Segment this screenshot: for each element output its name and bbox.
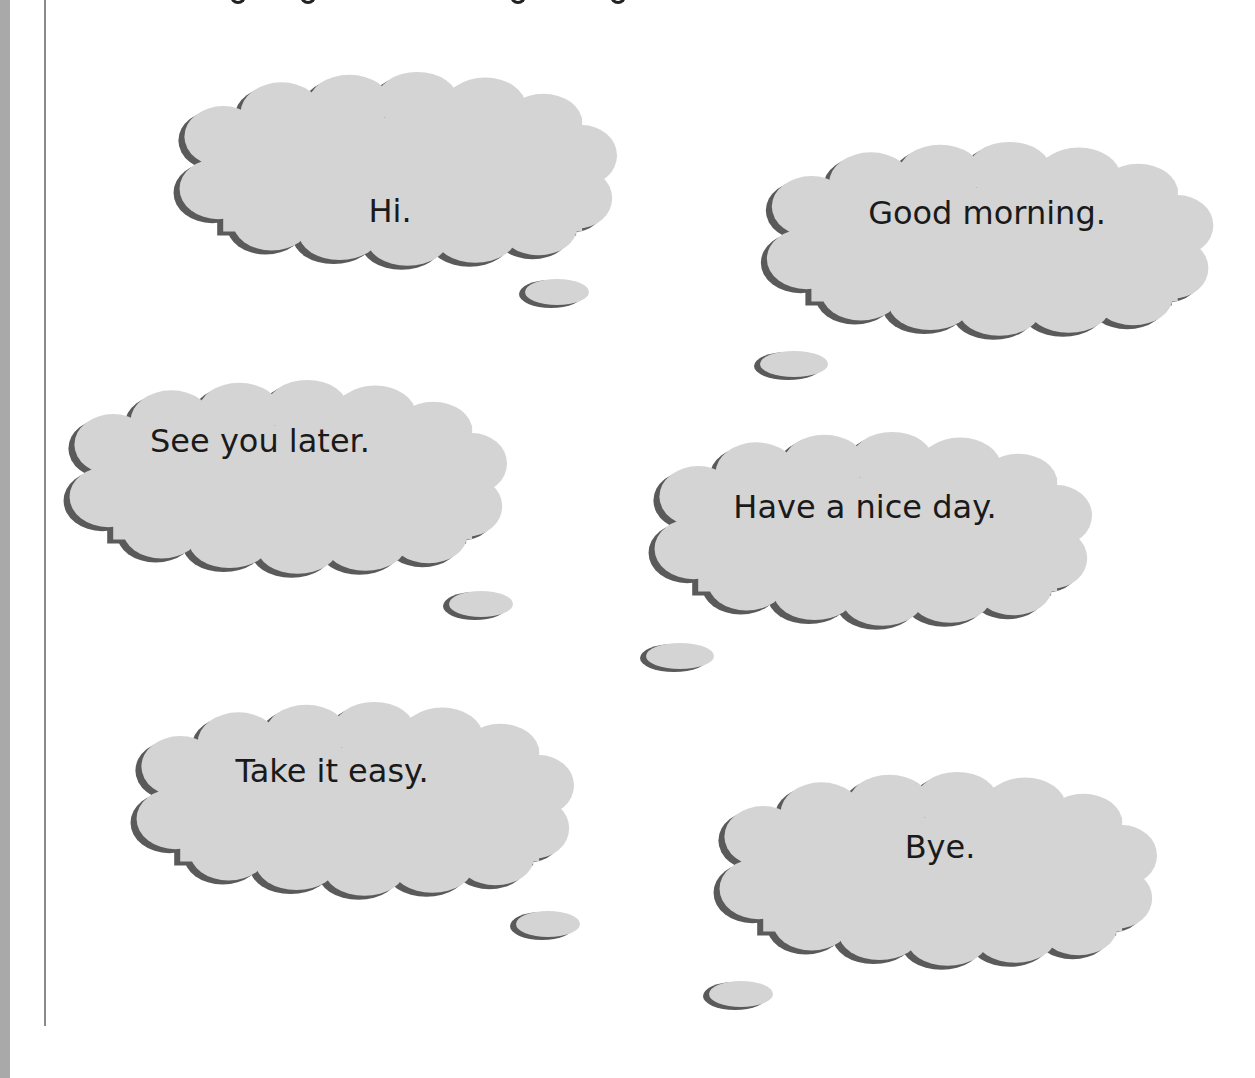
bubble-text: See you later. [0, 422, 525, 460]
speech-bubble-have-a-nice-day: Have a nice day. [640, 430, 1100, 680]
bubble-text: Have a nice day. [630, 488, 1100, 526]
bubble-text: Take it easy. [72, 752, 592, 790]
bubble-text: Good morning. [752, 194, 1222, 232]
speech-bubble-bye: Bye. [705, 770, 1175, 1020]
bubble-text: Bye. [705, 828, 1175, 866]
page-edge-stripe [0, 0, 10, 1078]
margin-rule [44, 0, 46, 1026]
speech-bubble-see-you-later: See you later. [55, 378, 525, 628]
clipped-text-line [180, 0, 740, 4]
speech-bubble-good-morning: Good morning. [752, 140, 1222, 390]
speech-bubble-hi: Hi. [165, 70, 635, 320]
speech-bubble-take-it-easy: Take it easy. [122, 700, 592, 950]
bubble-text: Hi. [145, 192, 635, 230]
